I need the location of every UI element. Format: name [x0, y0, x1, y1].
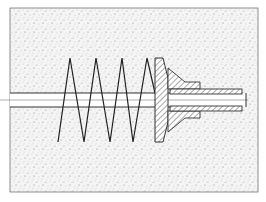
anchor-diagram: [0, 0, 266, 202]
rod: [0, 93, 248, 107]
